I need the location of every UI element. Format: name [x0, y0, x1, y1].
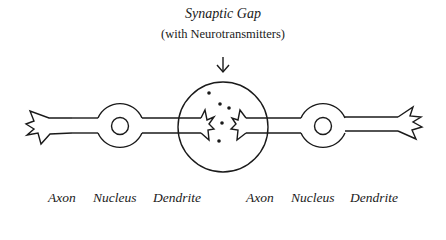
nucleus-right [315, 118, 332, 135]
label-dendrite-left: Dendrite [153, 190, 201, 206]
neuron-left [26, 104, 214, 148]
label-dendrite-right: Dendrite [350, 190, 398, 206]
label-axon-right: Axon [246, 190, 274, 206]
dendrite-left-1 [26, 111, 72, 144]
neuron-right [231, 104, 422, 148]
arrow-down-icon [217, 57, 229, 72]
label-axon-left: Axon [48, 190, 76, 206]
neurotransmitters [207, 91, 231, 143]
label-nucleus-left: Nucleus [93, 190, 137, 206]
synaptic-gap [178, 82, 268, 172]
nucleus-left-1 [112, 118, 129, 135]
label-nucleus-right: Nucleus [291, 190, 335, 206]
